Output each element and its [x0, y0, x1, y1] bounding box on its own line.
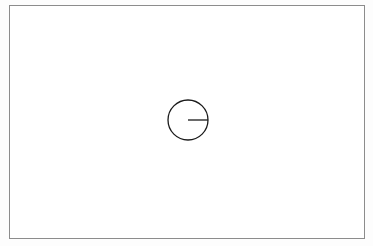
figure-canvas [0, 0, 373, 246]
geometry-figure [0, 0, 373, 246]
